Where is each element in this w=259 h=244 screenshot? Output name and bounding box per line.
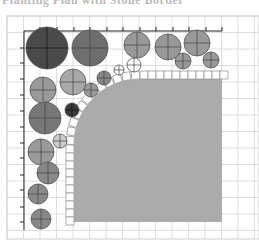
plant-circle [72, 30, 108, 66]
planting-plan-diagram [0, 0, 259, 244]
plant-circle [184, 30, 210, 56]
plant-circle [127, 58, 141, 72]
plant-circle [26, 27, 68, 69]
plant-circle [84, 83, 98, 97]
plant-circle [97, 71, 111, 85]
lawn-area [74, 79, 222, 222]
plant-circle [114, 65, 124, 75]
plant-circle [29, 102, 61, 134]
plant-circle [60, 69, 86, 95]
plant-circle [37, 162, 59, 184]
plant-circle [30, 77, 56, 103]
plant-circle [28, 139, 54, 165]
plant-circle [203, 52, 219, 68]
plant-circle [124, 32, 150, 58]
plant-circle [53, 134, 67, 148]
plant-circle [31, 209, 51, 229]
plant-circle [175, 53, 191, 69]
plant-circle [28, 184, 48, 204]
plant-circle [65, 103, 79, 117]
lawn-fill [74, 79, 222, 222]
